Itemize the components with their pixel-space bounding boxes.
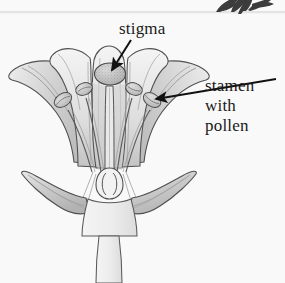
label-stamen-line-1: stamen bbox=[205, 76, 254, 96]
style bbox=[105, 86, 114, 170]
label-stamen-line-3: pollen bbox=[205, 116, 254, 136]
figure-page: stigma stamen with pollen bbox=[0, 0, 285, 283]
receptacle bbox=[82, 199, 137, 236]
label-stigma-line-1: stigma bbox=[119, 19, 166, 39]
stem bbox=[96, 236, 122, 283]
flower-longitudinal-section bbox=[9, 46, 210, 283]
label-stigma: stigma bbox=[119, 19, 166, 39]
sepal-left bbox=[22, 171, 90, 214]
label-stamen-with-pollen: stamen with pollen bbox=[205, 76, 254, 136]
ovary bbox=[96, 168, 123, 199]
sepal-right bbox=[128, 171, 196, 214]
stigma bbox=[95, 63, 126, 85]
flower-diagram-svg bbox=[0, 0, 285, 283]
label-stamen-line-2: with bbox=[205, 96, 254, 116]
